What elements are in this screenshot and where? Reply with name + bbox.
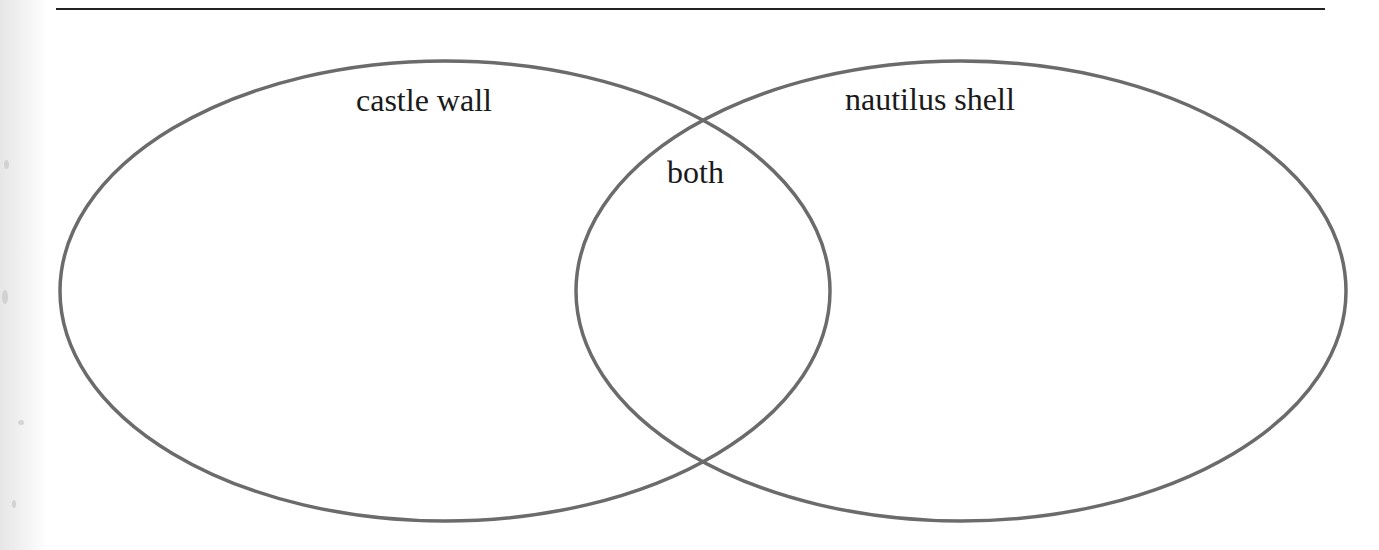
nautilus-shell-label: nautilus shell bbox=[845, 83, 1015, 115]
both-label: both bbox=[667, 156, 724, 188]
venn-diagram bbox=[0, 0, 1379, 550]
castle-wall-ellipse bbox=[60, 61, 830, 521]
castle-wall-label: castle wall bbox=[356, 84, 492, 116]
nautilus-shell-ellipse bbox=[576, 61, 1346, 521]
